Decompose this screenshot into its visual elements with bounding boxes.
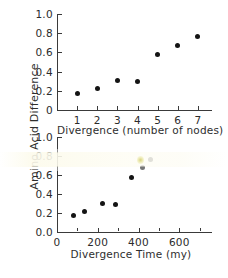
- bottom-y-tick-label: 0.8: [24, 150, 53, 162]
- bottom-y-tick-label: 0.4: [24, 188, 53, 200]
- bottom-y-tick: [58, 156, 62, 157]
- top-y-tick-label: 0: [24, 104, 53, 116]
- bottom-y-tick: [58, 175, 62, 176]
- top-y-tick-label: 0.2: [24, 85, 53, 97]
- bottom-y-tick: [58, 194, 62, 195]
- bottom-x-axis-line: [57, 232, 212, 233]
- top-y-tick-label: 1.0: [24, 8, 53, 20]
- bottom-y-tick: [58, 232, 62, 233]
- bottom-y-tick-label: 0.6: [24, 169, 53, 181]
- top-x-tick: [138, 106, 139, 110]
- top-x-tick: [117, 106, 118, 110]
- bottom-x-tick: [118, 228, 119, 231]
- bottom-data-point: [129, 175, 134, 180]
- top-data-point: [175, 43, 180, 48]
- bottom-x-tick: [98, 228, 99, 232]
- top-y-tick: [58, 33, 62, 34]
- bottom-x-tick: [77, 228, 78, 231]
- bottom-x-tick-label: 600: [169, 236, 190, 248]
- figure-scatter-amino-acid-divergence: Amino Acid Difference 00.20.40.60.81.012…: [0, 0, 228, 278]
- top-y-axis-line: [57, 14, 58, 110]
- bottom-y-tick-label: 0.0: [24, 226, 53, 238]
- top-x-axis-label: Divergence (number of nodes): [57, 124, 215, 136]
- bottom-data-point: [140, 165, 145, 170]
- bottom-y-tick: [58, 137, 62, 138]
- top-y-tick: [58, 110, 62, 111]
- top-y-tick-label: 0.4: [24, 66, 53, 78]
- top-data-point: [75, 91, 80, 96]
- bottom-data-point: [148, 157, 153, 162]
- top-x-tick: [77, 106, 78, 110]
- bottom-data-point: [113, 202, 118, 207]
- bottom-x-tick: [139, 228, 140, 232]
- bottom-x-tick: [179, 228, 180, 232]
- top-data-point: [115, 78, 120, 83]
- top-y-tick: [58, 91, 62, 92]
- top-data-point: [95, 86, 100, 91]
- top-y-tick: [58, 52, 62, 53]
- top-x-tick: [97, 106, 98, 110]
- top-y-tick-label: 0.6: [24, 46, 53, 58]
- top-data-point: [155, 52, 160, 57]
- top-x-tick: [178, 106, 179, 110]
- bottom-x-axis-label: Divergence Time (my): [52, 248, 210, 260]
- bottom-y-tick: [58, 213, 62, 214]
- bottom-x-tick: [57, 228, 58, 232]
- bottom-x-tick-label: 0: [54, 236, 61, 248]
- top-y-tick: [58, 72, 62, 73]
- top-data-point: [135, 79, 140, 84]
- top-data-point: [195, 34, 200, 39]
- top-x-tick: [198, 106, 199, 110]
- bottom-x-tick-label: 400: [128, 236, 149, 248]
- top-y-tick: [58, 14, 62, 15]
- top-x-tick: [158, 106, 159, 110]
- bottom-x-tick: [200, 228, 201, 231]
- bottom-data-point: [71, 213, 76, 218]
- bottom-data-point: [82, 209, 87, 214]
- bottom-x-tick-label: 200: [87, 236, 108, 248]
- bottom-data-point: [100, 201, 105, 206]
- bottom-y-tick-label: 0.2: [24, 207, 53, 219]
- scan-artifact-residual-point: [137, 156, 144, 164]
- top-x-axis-line: [57, 110, 212, 111]
- bottom-y-tick-label: 1.0: [24, 131, 53, 143]
- bottom-x-tick: [159, 228, 160, 231]
- bottom-y-axis-line: [57, 137, 58, 232]
- top-y-tick-label: 0.8: [24, 27, 53, 39]
